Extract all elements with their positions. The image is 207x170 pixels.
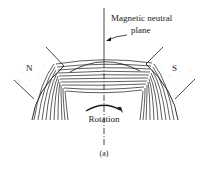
rotor-top-arc — [70, 62, 140, 72]
diagram-canvas: Magnetic neutral plane N S Rotation (a) — [0, 0, 207, 170]
south-pole-label: S — [172, 63, 177, 73]
neutral-plane-pointer-arrow — [106, 35, 127, 41]
rotation-arrow-icon — [86, 105, 123, 113]
rotation-label: Rotation — [89, 114, 120, 124]
neutral-plane-label-line2: plane — [131, 25, 151, 35]
neutral-plane-label-line1: Magnetic neutral — [111, 13, 173, 23]
north-pole-label: N — [26, 63, 33, 73]
figure-caption: (a) — [100, 149, 109, 158]
armature-reaction-diagram: Magnetic neutral plane N S Rotation (a) — [0, 0, 207, 170]
north-pole-stipple — [17, 65, 48, 90]
rotor-left-arc — [32, 66, 64, 120]
